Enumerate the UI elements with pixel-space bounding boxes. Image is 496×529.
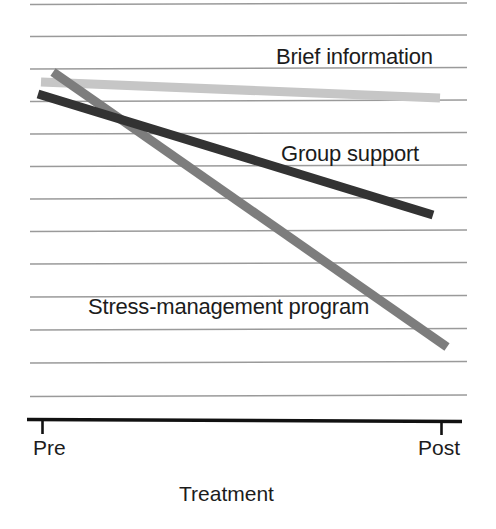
series-line-brief-information xyxy=(41,82,440,98)
gridline xyxy=(30,35,467,37)
x-axis-tick-label-pre: Pre xyxy=(33,437,66,458)
gridline xyxy=(30,263,467,265)
x-axis-tick-label-post: Post xyxy=(418,437,460,458)
series-label-group-support: Group support xyxy=(281,143,419,165)
gridline xyxy=(30,3,467,5)
x-axis-line xyxy=(27,420,462,422)
series-label-stress-management-program: Stress-management program xyxy=(88,296,369,318)
gridline xyxy=(30,198,467,200)
gridline xyxy=(30,329,467,331)
gridline xyxy=(30,395,467,397)
chart-container: Brief information Group support Stress-m… xyxy=(0,0,496,529)
gridline xyxy=(30,230,467,232)
series-label-brief-information: Brief information xyxy=(276,46,433,68)
x-axis-title: Treatment xyxy=(179,483,274,504)
gridline xyxy=(30,362,467,364)
gridline xyxy=(30,133,467,135)
x-axis-group xyxy=(27,420,462,436)
